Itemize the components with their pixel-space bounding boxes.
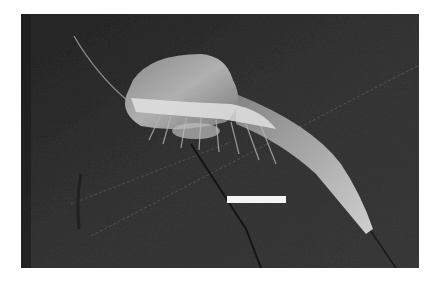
fossil-illustration — [21, 14, 419, 268]
scale-bar — [227, 196, 286, 203]
fossil-photograph — [21, 14, 419, 268]
rock-background — [21, 14, 419, 268]
